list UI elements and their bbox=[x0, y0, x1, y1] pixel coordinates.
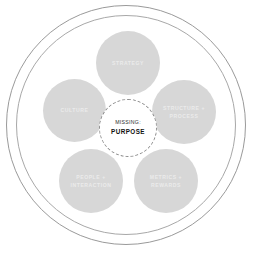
node-structure-process-label: STRUCTURE + PROCESS bbox=[160, 104, 208, 121]
node-strategy[interactable]: STRATEGY bbox=[96, 31, 160, 95]
node-metrics-rewards-label: METRICS + REWARDS bbox=[147, 173, 185, 190]
node-culture-label: CULTURE bbox=[58, 106, 92, 114]
node-structure-process[interactable]: STRUCTURE + PROCESS bbox=[152, 80, 216, 144]
center-label-missing: MISSING: bbox=[115, 119, 141, 127]
center-label-purpose: PURPOSE bbox=[111, 127, 145, 136]
node-people-interaction-label: PEOPLE + INTERACTION bbox=[68, 173, 115, 190]
node-people-interaction[interactable]: PEOPLE + INTERACTION bbox=[59, 149, 123, 213]
node-strategy-label: STRATEGY bbox=[109, 59, 147, 67]
star-model-diagram: STRATEGY CULTURE STRUCTURE + PROCESS PEO… bbox=[0, 0, 257, 261]
center-node-missing-purpose[interactable]: MISSING: PURPOSE bbox=[99, 99, 157, 157]
node-metrics-rewards[interactable]: METRICS + REWARDS bbox=[134, 149, 198, 213]
node-culture[interactable]: CULTURE bbox=[43, 79, 106, 142]
